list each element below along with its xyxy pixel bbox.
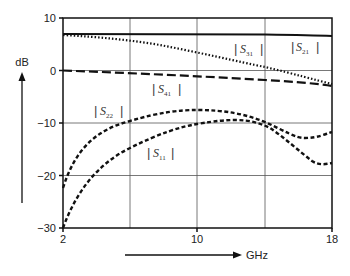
curve-s22 xyxy=(63,110,332,188)
x-tick-10: 10 xyxy=(191,233,203,245)
svg-text:|: | xyxy=(178,81,181,96)
y-tick-0: 0 xyxy=(50,65,56,77)
x-tick-2: 2 xyxy=(60,233,66,245)
svg-text:|: | xyxy=(171,145,174,160)
x-axis-arrow-icon xyxy=(125,252,242,259)
svg-text:S22: S22 xyxy=(100,104,114,120)
svg-text:|: | xyxy=(152,81,155,96)
svg-text:|: | xyxy=(147,145,150,160)
label-s11: | S11 | xyxy=(147,145,174,162)
label-s22: | S22 | xyxy=(94,103,123,120)
svg-text:|: | xyxy=(120,103,123,118)
svg-text:|: | xyxy=(94,103,97,118)
x-axis-label: GHz xyxy=(246,249,268,261)
x-tick-18: 18 xyxy=(326,233,338,245)
y-tick-10: 10 xyxy=(44,12,56,24)
svg-text:S21: S21 xyxy=(296,40,310,56)
s-parameter-chart: 10 0 −10 −20 −30 2 10 18 dB GHz | S21 | … xyxy=(0,0,350,276)
curves xyxy=(63,34,332,228)
svg-text:|: | xyxy=(260,41,263,56)
curve-s21 xyxy=(63,34,332,36)
label-s31: | S31 | xyxy=(234,41,263,58)
svg-text:|: | xyxy=(316,39,319,54)
curve-s11 xyxy=(63,120,332,228)
y-tick-minus20: −20 xyxy=(37,170,56,182)
y-axis-label: dB xyxy=(15,56,28,68)
svg-text:|: | xyxy=(234,41,237,56)
svg-text:|: | xyxy=(291,39,294,54)
label-s21: | S21 | xyxy=(291,39,319,56)
y-axis-arrow-icon xyxy=(19,72,26,203)
y-tick-minus10: −10 xyxy=(37,117,56,129)
y-tick-minus30: −30 xyxy=(37,222,56,234)
svg-text:S41: S41 xyxy=(158,82,172,98)
svg-text:S31: S31 xyxy=(240,42,254,58)
svg-text:S11: S11 xyxy=(153,146,166,162)
label-s41: | S41 | xyxy=(152,81,181,98)
